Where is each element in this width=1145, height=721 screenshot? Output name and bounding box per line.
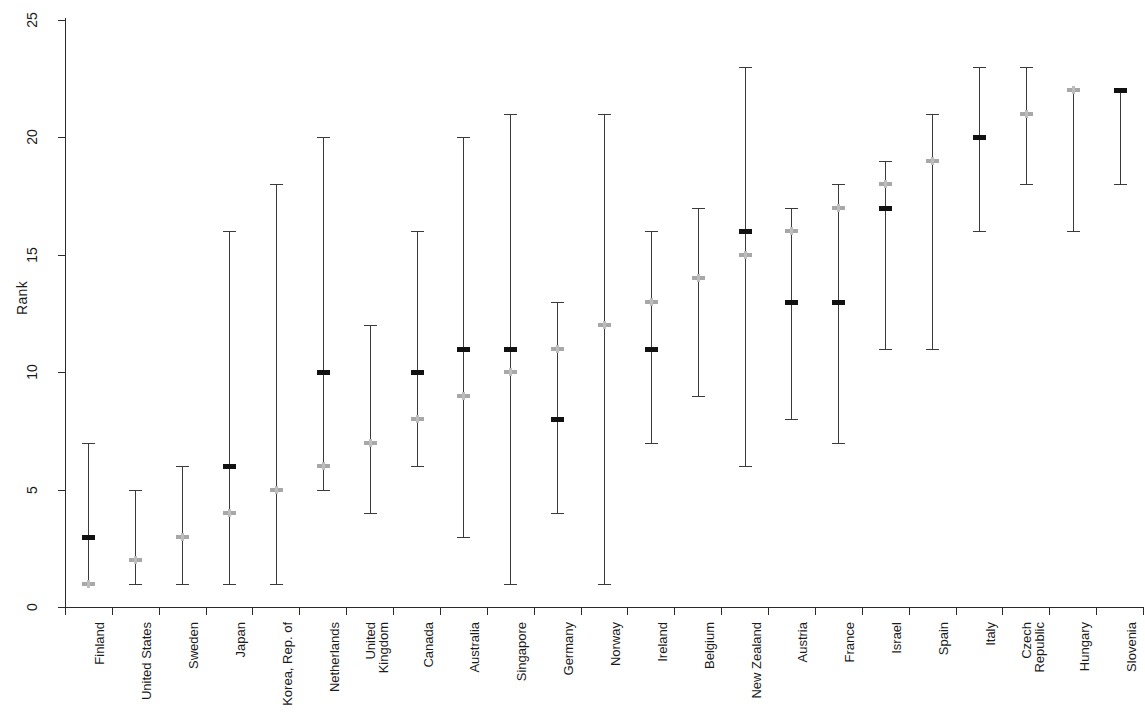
range-line xyxy=(417,231,418,466)
range-cap-high xyxy=(411,231,424,232)
x-category-label: Korea, Rep. of xyxy=(281,622,294,706)
dark-marker xyxy=(1114,88,1127,93)
range-cap-low xyxy=(411,466,424,467)
x-tick xyxy=(65,607,66,615)
light-marker xyxy=(1067,88,1080,92)
range-cap-low xyxy=(739,466,752,467)
x-tick xyxy=(1143,607,1144,615)
range-cap-high xyxy=(645,231,658,232)
x-tick xyxy=(862,607,863,615)
range-cap-low xyxy=(973,231,986,232)
y-tick xyxy=(58,20,66,21)
dark-marker xyxy=(317,370,330,375)
range-cap-low xyxy=(551,513,564,514)
range-line xyxy=(651,231,652,442)
x-tick xyxy=(627,607,628,615)
x-category-label: Finland xyxy=(93,622,106,665)
range-cap-low xyxy=(270,584,283,585)
range-cap-high xyxy=(598,114,611,115)
dark-marker xyxy=(645,347,658,352)
x-tick xyxy=(112,607,113,615)
light-marker xyxy=(1020,112,1033,116)
x-category-label: Italy xyxy=(984,622,997,646)
dark-marker xyxy=(973,135,986,140)
light-marker xyxy=(504,370,517,374)
x-tick xyxy=(581,607,582,615)
light-marker xyxy=(645,300,658,304)
range-line xyxy=(229,231,230,583)
y-tick xyxy=(58,137,66,138)
range-line xyxy=(979,67,980,231)
x-tick xyxy=(815,607,816,615)
range-cap-low xyxy=(1020,184,1033,185)
range-cap-low xyxy=(785,419,798,420)
light-marker xyxy=(785,229,798,233)
x-category-label: Sweden xyxy=(187,622,200,669)
dark-marker xyxy=(785,300,798,305)
range-line xyxy=(557,302,558,513)
range-cap-high xyxy=(317,137,330,138)
x-category-label: Belgium xyxy=(703,622,716,669)
y-tick-label: 0 xyxy=(24,587,40,627)
range-line xyxy=(370,325,371,513)
x-category-label: Australia xyxy=(468,622,481,673)
range-line xyxy=(698,208,699,396)
dark-marker xyxy=(739,229,752,234)
x-category-label: Hungary xyxy=(1078,622,1091,671)
range-cap-low xyxy=(317,490,330,491)
range-cap-high xyxy=(364,325,377,326)
x-tick xyxy=(299,607,300,615)
light-marker xyxy=(176,535,189,539)
dark-marker xyxy=(832,300,845,305)
range-line xyxy=(838,184,839,442)
range-cap-low xyxy=(1067,231,1080,232)
light-marker xyxy=(926,159,939,163)
range-cap-low xyxy=(879,349,892,350)
range-cap-high xyxy=(457,137,470,138)
x-tick xyxy=(487,607,488,615)
light-marker xyxy=(364,441,377,445)
y-axis-line xyxy=(65,18,66,608)
light-marker xyxy=(223,511,236,515)
range-cap-low xyxy=(504,584,517,585)
x-tick xyxy=(1002,607,1003,615)
dark-marker xyxy=(457,347,470,352)
dark-marker xyxy=(879,206,892,211)
range-line xyxy=(604,114,605,584)
range-cap-high xyxy=(82,443,95,444)
dark-marker xyxy=(551,417,564,422)
y-tick xyxy=(58,490,66,491)
range-cap-low xyxy=(223,584,236,585)
range-line xyxy=(135,490,136,584)
x-tick xyxy=(206,607,207,615)
range-cap-high xyxy=(504,114,517,115)
x-category-label: Slovenia xyxy=(1125,622,1138,672)
range-line xyxy=(791,208,792,419)
light-marker xyxy=(82,582,95,586)
x-category-label: United States xyxy=(140,622,153,700)
x-category-label: Israel xyxy=(890,622,903,654)
range-cap-low xyxy=(692,396,705,397)
range-cap-low xyxy=(176,584,189,585)
x-category-label: CzechRepublic xyxy=(1020,622,1046,673)
range-cap-high xyxy=(832,184,845,185)
range-line xyxy=(1026,67,1027,184)
x-category-label: Japan xyxy=(234,622,247,657)
range-cap-high xyxy=(1020,67,1033,68)
light-marker xyxy=(551,347,564,351)
range-cap-high xyxy=(551,302,564,303)
x-tick xyxy=(909,607,910,615)
range-cap-low xyxy=(926,349,939,350)
range-line xyxy=(276,184,277,583)
x-tick xyxy=(674,607,675,615)
rank-range-chart: Rank 0510152025 FinlandUnited StatesSwed… xyxy=(0,0,1145,721)
dark-marker xyxy=(411,370,424,375)
range-cap-high xyxy=(270,184,283,185)
range-cap-high xyxy=(879,161,892,162)
range-cap-low xyxy=(645,443,658,444)
x-tick xyxy=(1096,607,1097,615)
range-cap-low xyxy=(1114,184,1127,185)
x-category-label: Ireland xyxy=(656,622,669,662)
x-tick xyxy=(440,607,441,615)
x-category-label: France xyxy=(843,622,856,662)
